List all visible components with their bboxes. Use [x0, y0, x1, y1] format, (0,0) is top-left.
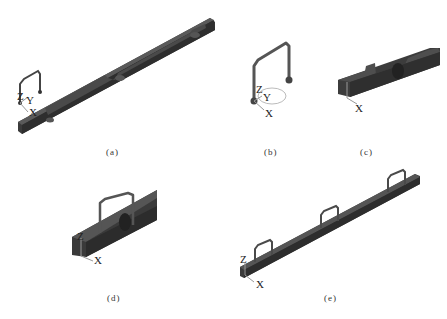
axis-label-x: X — [29, 106, 37, 118]
u-bracket-render: Z Y X — [220, 0, 330, 160]
axis-label-z: Z — [77, 230, 84, 242]
panel-a: Z Y X (a) — [0, 0, 220, 160]
caption-d: (d) — [107, 293, 121, 303]
axis-label-x: X — [265, 107, 273, 119]
axis-label-x: X — [94, 254, 102, 266]
panel-d: Z X (d) — [0, 160, 200, 319]
beam-closeup-render: X — [330, 0, 447, 160]
axis-label-z: Z — [17, 90, 24, 102]
panel-c: X (c) — [330, 0, 447, 160]
axis-label-z: Z — [256, 83, 263, 95]
axis-label-y: Y — [26, 94, 34, 106]
beam-with-notches-render: Z Y X — [0, 0, 220, 160]
caption-e: (e) — [324, 293, 337, 303]
axis-label-x: X — [256, 278, 264, 290]
axis-label-x: X — [355, 102, 363, 114]
beam-with-bracket-render: Z X — [0, 160, 200, 319]
panel-b: Z Y X (b) — [220, 0, 330, 160]
caption-a: (a) — [106, 147, 119, 157]
axis-label-z: Z — [240, 253, 247, 265]
caption-c: (c) — [360, 147, 373, 157]
caption-b: (b) — [264, 147, 278, 157]
axis-label-y: Y — [263, 91, 271, 103]
panel-e: Z X (e) — [200, 160, 447, 319]
